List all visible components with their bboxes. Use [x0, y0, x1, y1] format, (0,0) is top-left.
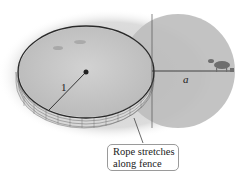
radius-label: 1: [61, 81, 67, 93]
callout-line-1: Rope stretches: [113, 146, 178, 158]
center-post: [84, 70, 89, 75]
rock: [74, 40, 86, 44]
callout-box: Rope stretches along fence: [107, 144, 179, 171]
callout-line-2: along fence: [113, 158, 178, 170]
rock: [53, 46, 63, 50]
rope-length-label: a: [183, 73, 189, 85]
